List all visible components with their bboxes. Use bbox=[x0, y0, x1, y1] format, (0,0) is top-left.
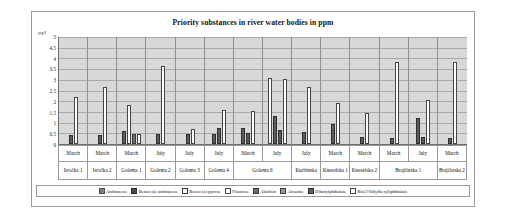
legend-item: Dibutylphthalate bbox=[308, 188, 346, 194]
bar-group bbox=[88, 37, 117, 144]
axis-month-cell: March bbox=[437, 146, 466, 162]
bar-group bbox=[350, 37, 379, 144]
bar-group bbox=[146, 37, 175, 144]
bar bbox=[103, 87, 107, 144]
chart-title: Priority substances in river water bodie… bbox=[32, 18, 474, 27]
bar bbox=[69, 135, 73, 144]
legend-swatch-icon bbox=[182, 188, 188, 194]
axis-month-cell: July bbox=[204, 146, 233, 162]
bar bbox=[156, 134, 160, 144]
bar-group bbox=[438, 37, 467, 144]
axis-row-months: MarchMarchMarchJulyJulyJulyMarchJulyJuly… bbox=[59, 146, 467, 162]
legend-item: Atrazine bbox=[280, 188, 303, 194]
axis-site-cell: Golema 4 bbox=[204, 162, 233, 180]
bar-group bbox=[263, 37, 292, 144]
axis-month-cell: March bbox=[59, 146, 88, 162]
plot-canvas bbox=[58, 37, 467, 145]
bar bbox=[217, 128, 221, 144]
legend-label: Dibutylphthalate bbox=[315, 189, 346, 194]
axis-month-cell: July bbox=[175, 146, 204, 162]
bar bbox=[360, 137, 364, 144]
axis-month-cell: March bbox=[350, 146, 379, 162]
legend-label: Atrazine bbox=[288, 189, 304, 194]
category-axis-table: MarchMarchMarchJulyJulyJulyMarchJulyJuly… bbox=[58, 145, 467, 180]
axis-month-cell: March bbox=[321, 146, 350, 162]
bar bbox=[278, 130, 282, 144]
legend-label: Benzo (a) anthracene bbox=[139, 189, 178, 194]
bar-group bbox=[176, 37, 205, 144]
chart-frame: Priority substances in river water bodie… bbox=[31, 11, 475, 207]
bar-group bbox=[117, 37, 146, 144]
bar-group bbox=[205, 37, 234, 144]
y-axis-tick-label: 2.5 bbox=[50, 88, 56, 94]
bar bbox=[161, 66, 165, 144]
axis-site-cell: Knеselska 2 bbox=[350, 162, 379, 180]
bar bbox=[137, 134, 141, 144]
bar bbox=[365, 113, 369, 144]
bar-group bbox=[234, 37, 263, 144]
bar-group bbox=[380, 37, 409, 144]
bar bbox=[74, 97, 78, 144]
bar-group bbox=[409, 37, 438, 144]
bar bbox=[241, 128, 245, 144]
legend-swatch-icon bbox=[99, 188, 105, 194]
y-axis-tick-label: 1 bbox=[53, 120, 56, 126]
axis-site-cell: Brajčinska 1 bbox=[379, 162, 437, 180]
legend-item: Fluorene bbox=[225, 188, 249, 194]
legend-item: Alachlor bbox=[253, 188, 277, 194]
y-axis-unit-label: µg/l bbox=[38, 30, 46, 35]
bar-group bbox=[292, 37, 321, 144]
bar bbox=[246, 133, 250, 144]
axis-month-cell: March bbox=[117, 146, 146, 162]
plot-area: 54.543.532.521.510.50 bbox=[58, 37, 467, 145]
axis-month-cell: July bbox=[408, 146, 437, 162]
axis-site-cell: Golema 2 bbox=[146, 162, 175, 180]
y-axis-tick-label: 3 bbox=[53, 77, 56, 83]
axis-site-cell: Istočka 2 bbox=[88, 162, 117, 180]
bar bbox=[307, 87, 311, 144]
legend-swatch-icon bbox=[131, 188, 137, 194]
bar-series-container bbox=[59, 37, 467, 144]
bar-group bbox=[321, 37, 350, 144]
bar bbox=[268, 78, 272, 144]
axis-site-cell: Golema 6 bbox=[233, 162, 291, 180]
axis-month-cell: July bbox=[262, 146, 291, 162]
legend-item: Bis(2-Ethylhexyl)phthalate bbox=[350, 188, 408, 194]
bar bbox=[98, 135, 102, 144]
legend-swatch-icon bbox=[225, 188, 231, 194]
bar bbox=[390, 138, 394, 144]
axis-site-cell: Kurbinska bbox=[292, 162, 321, 180]
legend-item: Benzo (a) anthracene bbox=[131, 188, 178, 194]
bar bbox=[453, 62, 457, 144]
bar-group bbox=[59, 37, 88, 144]
bar bbox=[127, 105, 131, 144]
bar bbox=[395, 62, 399, 144]
axis-site-cell: Brajčinska 2 bbox=[437, 162, 466, 180]
bar bbox=[191, 129, 195, 144]
legend-label: Benzo (a) pyrene bbox=[189, 189, 221, 194]
bar bbox=[273, 116, 277, 144]
bar bbox=[186, 134, 190, 144]
bar bbox=[421, 137, 425, 144]
legend-swatch-icon bbox=[350, 188, 356, 194]
y-axis-tick-label: 4 bbox=[53, 56, 56, 62]
bar bbox=[132, 134, 136, 144]
bar bbox=[222, 110, 226, 144]
legend-item: Benzo (a) pyrene bbox=[182, 188, 221, 194]
axis-site-cell: Knеselska 1 bbox=[321, 162, 350, 180]
bar bbox=[336, 103, 340, 144]
axis-row-sites: Istočka 1Istočka 2Golema 1Golema 2Golema… bbox=[59, 162, 467, 180]
axis-site-cell: Golema 3 bbox=[175, 162, 204, 180]
legend-label: Alachlor bbox=[260, 189, 276, 194]
legend-swatch-icon bbox=[253, 188, 259, 194]
y-axis-tick-label: 4.5 bbox=[50, 45, 56, 51]
legend-label: Bis(2-Ethylhexyl)phthalate bbox=[357, 189, 407, 194]
y-axis-tick-label: 3.5 bbox=[50, 66, 56, 72]
y-axis-tick-label: 0 bbox=[53, 142, 56, 148]
bar bbox=[448, 138, 452, 144]
y-axis-tick-label: 5 bbox=[53, 34, 56, 40]
y-axis-tick-label: 1.5 bbox=[50, 110, 56, 116]
bar bbox=[122, 131, 126, 144]
legend-swatch-icon bbox=[308, 188, 314, 194]
bar bbox=[251, 111, 255, 144]
